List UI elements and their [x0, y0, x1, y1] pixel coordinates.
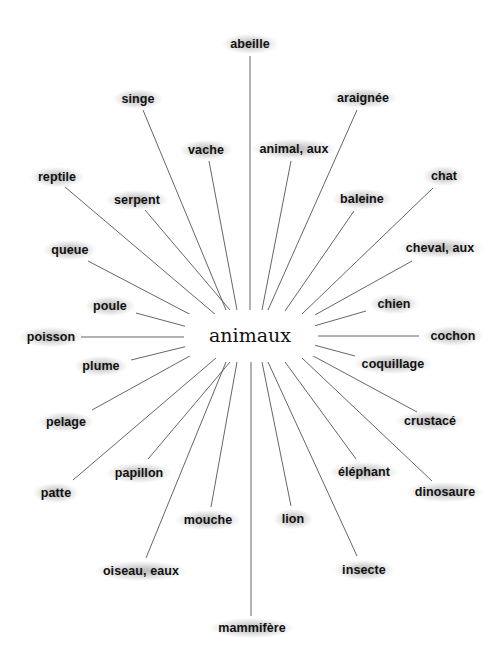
connector-line [314, 311, 366, 326]
node-label[interactable]: animal, aux [251, 139, 336, 159]
connector-line [209, 161, 237, 310]
connector-line [148, 362, 230, 459]
node-label[interactable]: oiseau, eaux [95, 561, 187, 581]
node-label[interactable]: araignée [329, 88, 397, 108]
node-label[interactable]: queue [43, 240, 96, 260]
node-label[interactable]: patte [33, 483, 79, 503]
node-label[interactable]: poisson [19, 327, 84, 347]
center-node[interactable]: animaux [185, 314, 315, 356]
node-label[interactable]: éléphant [330, 462, 398, 482]
connector-line [211, 362, 237, 507]
node-label[interactable]: plume [74, 356, 127, 376]
node-label[interactable]: pelage [38, 412, 94, 432]
node-label[interactable]: cheval, aux [398, 238, 483, 258]
node-label[interactable]: vache [180, 140, 232, 160]
connector-line [145, 210, 230, 310]
node-label[interactable]: baleine [332, 189, 392, 209]
node-label[interactable]: lion [274, 509, 313, 529]
node-label[interactable]: coquillage [354, 354, 433, 374]
connector-line [131, 346, 188, 360]
connector-line [73, 358, 216, 480]
connector-line [285, 211, 354, 311]
node-label[interactable]: crustacé [396, 411, 464, 431]
word-map-diagram: animaux abeillesingearaignéevacheanimal,… [0, 0, 494, 670]
node-label[interactable]: abeille [222, 34, 278, 54]
node-label[interactable]: mouche [176, 510, 241, 530]
node-label[interactable]: cochon [422, 326, 483, 346]
node-label[interactable]: mammifère [210, 618, 294, 638]
connector-line [314, 345, 355, 356]
node-label[interactable]: reptile [30, 167, 84, 187]
node-label[interactable]: insecte [334, 560, 394, 580]
node-label[interactable]: poule [85, 296, 135, 316]
node-label[interactable]: chien [369, 294, 418, 314]
connector-line [262, 362, 291, 506]
node-label[interactable]: singe [113, 89, 162, 109]
node-label[interactable]: serpent [106, 190, 168, 210]
connector-line [136, 313, 188, 327]
node-label[interactable]: chat [423, 166, 465, 186]
node-label[interactable]: dinosaure [407, 482, 484, 502]
connector-line [262, 161, 291, 310]
connector-line [285, 362, 356, 459]
node-label[interactable]: papillon [107, 463, 172, 483]
